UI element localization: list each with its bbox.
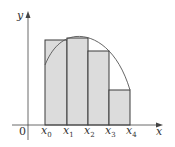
partition-label-x4: x4 bbox=[126, 124, 137, 139]
partition-label-x0: x0 bbox=[41, 124, 52, 139]
riemann-diagram: y 0 x x0 x1 x2 x3 x4 bbox=[0, 0, 175, 147]
rectangles bbox=[45, 38, 130, 125]
rectangle-1 bbox=[45, 40, 67, 125]
partition-label-x2: x2 bbox=[84, 124, 95, 139]
origin-label: 0 bbox=[19, 125, 26, 138]
rectangle-3 bbox=[88, 51, 109, 125]
rectangle-2 bbox=[67, 38, 88, 125]
y-axis-arrow-icon bbox=[26, 11, 31, 18]
x-axis-label: x bbox=[156, 125, 163, 138]
rectangle-4 bbox=[109, 90, 130, 125]
partition-labels: x0 x1 x2 x3 x4 bbox=[41, 124, 137, 139]
partition-label-x1: x1 bbox=[63, 124, 74, 139]
partition-label-x3: x3 bbox=[105, 124, 116, 139]
y-axis-label: y bbox=[16, 9, 24, 22]
